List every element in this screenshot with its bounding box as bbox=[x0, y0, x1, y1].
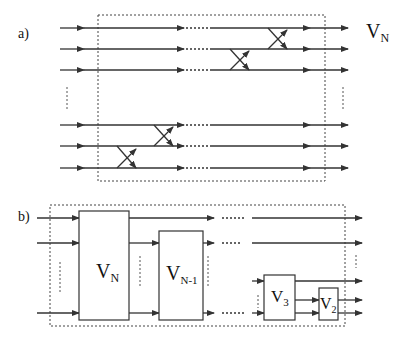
panel-a: a) bbox=[18, 15, 389, 181]
panel-a-circuit-box bbox=[98, 15, 325, 181]
block-vn-1: VN-1 bbox=[159, 231, 203, 320]
output-label-vn: VN bbox=[366, 20, 389, 45]
panel-b-label: b) bbox=[18, 209, 30, 225]
swap-icon bbox=[268, 28, 287, 49]
swap-icon bbox=[117, 146, 136, 168]
panel-a-wires bbox=[60, 28, 348, 168]
block-v2: V2 bbox=[319, 288, 338, 320]
block-v3: V3 bbox=[264, 275, 295, 320]
panel-a-label: a) bbox=[18, 26, 29, 42]
swap-icon bbox=[230, 49, 249, 70]
panel-b: b) bbox=[18, 205, 362, 326]
block-vn: VN bbox=[79, 211, 129, 320]
diagram-canvas: a) bbox=[0, 0, 403, 341]
swap-icon bbox=[154, 125, 173, 146]
